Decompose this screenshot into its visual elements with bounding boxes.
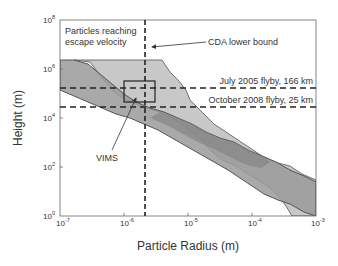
x-axis-tick-labels: 10-7 10-6 10-5 10-4 10-3 bbox=[56, 217, 325, 228]
svg-text:106: 106 bbox=[43, 63, 55, 74]
svg-text:10-7: 10-7 bbox=[56, 217, 70, 228]
svg-text:100: 100 bbox=[43, 210, 55, 221]
escape-label-line1: Particles reaching bbox=[65, 26, 137, 36]
october-flyby-label: October 2008 flyby, 25 km bbox=[209, 95, 313, 105]
svg-text:104: 104 bbox=[43, 112, 55, 123]
svg-text:10-3: 10-3 bbox=[311, 217, 325, 228]
svg-text:10-4: 10-4 bbox=[248, 217, 262, 228]
cda-arrow bbox=[152, 42, 206, 47]
y-axis-tick-labels: 100 102 104 106 108 bbox=[43, 14, 55, 221]
svg-text:108: 108 bbox=[43, 14, 55, 25]
vims-label: VIMS bbox=[96, 153, 118, 163]
escape-label-line2: escape velocity bbox=[65, 37, 127, 47]
svg-text:10-6: 10-6 bbox=[120, 217, 134, 228]
svg-text:10-5: 10-5 bbox=[184, 217, 198, 228]
height-vs-radius-chart: VIMS CDA lower bound Particles reaching … bbox=[0, 0, 338, 266]
y-axis-title: Height (m) bbox=[11, 90, 25, 146]
cda-label: CDA lower bound bbox=[208, 37, 278, 47]
x-axis-title: Particle Radius (m) bbox=[137, 239, 239, 253]
july-flyby-label: July 2005 flyby, 166 km bbox=[220, 76, 313, 86]
svg-text:102: 102 bbox=[43, 161, 55, 172]
x-axis-ticks bbox=[124, 213, 252, 216]
